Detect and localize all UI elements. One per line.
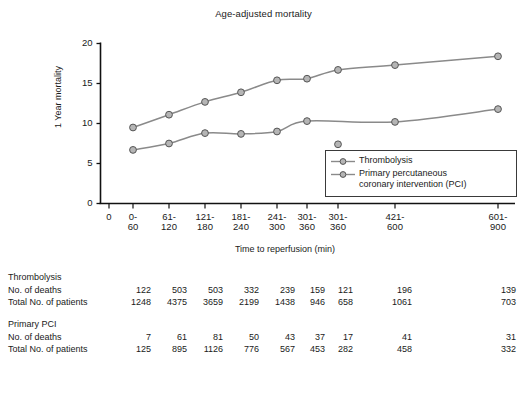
table-cell: 61	[153, 332, 187, 342]
data-point-marker	[202, 99, 209, 106]
series-line-primary-pci	[133, 109, 498, 150]
data-point-marker	[495, 53, 502, 60]
y-tick-label: 5	[71, 157, 93, 168]
table-cell: 503	[153, 285, 187, 295]
table-cell: 50	[225, 332, 259, 342]
table-row-label: No. of deaths	[8, 285, 62, 295]
table-cell: 31	[482, 332, 516, 342]
table-cell: 41	[378, 332, 412, 342]
table-cell: 1061	[378, 297, 412, 307]
data-point-marker	[274, 128, 281, 135]
y-tick-label: 20	[71, 37, 93, 48]
data-point-marker	[166, 111, 173, 118]
table-cell: 81	[189, 332, 223, 342]
y-tick-label: 10	[71, 117, 93, 128]
data-point-marker	[335, 141, 342, 148]
x-tick-label: 121- 180	[187, 212, 223, 233]
table-cell: 17	[319, 332, 353, 342]
table-cell: 2199	[225, 297, 259, 307]
table-cell: 1248	[117, 297, 151, 307]
x-tick-label: 0- 60	[115, 212, 151, 233]
x-tick-label: 181- 240	[223, 212, 259, 233]
x-tick-label: 601- 900	[480, 212, 516, 233]
table-cell: 121	[319, 285, 353, 295]
legend-marker-icon	[331, 156, 355, 167]
table-cell: 458	[378, 344, 412, 354]
y-axis-label: 1 Year mortality	[53, 66, 63, 128]
x-tick-label: 301- 360	[320, 212, 356, 233]
table-cell: 4375	[153, 297, 187, 307]
table-row-label: Total No. of patients	[8, 297, 88, 307]
table-row-label: No. of deaths	[8, 332, 62, 342]
y-tick-label: 15	[71, 77, 93, 88]
figure-age-adjusted-mortality: Age-adjusted mortality 1 Year mortality …	[0, 0, 527, 394]
series-group	[130, 53, 502, 153]
table-cell: 7	[117, 332, 151, 342]
data-point-marker	[238, 89, 245, 96]
legend-marker-icon	[331, 169, 355, 180]
table-cell: 122	[117, 285, 151, 295]
data-point-marker	[392, 62, 399, 69]
data-point-marker	[130, 124, 137, 131]
legend-label-thrombolysis: Thrombolysis	[359, 155, 413, 166]
legend-item-thrombolysis: Thrombolysis	[331, 155, 511, 167]
legend-label-line2: coronary intervention (PCI)	[359, 179, 467, 189]
table-cell: 332	[225, 285, 259, 295]
table-group-title: Thrombolysis	[8, 272, 62, 282]
legend-label-line1: Primary percutaneous	[359, 168, 447, 178]
y-tick-label: 0	[71, 197, 93, 208]
data-point-marker	[202, 130, 209, 137]
data-point-marker	[130, 147, 137, 154]
table-cell: 658	[319, 297, 353, 307]
legend-item-primary-pci: Primary percutaneouscoronary interventio…	[331, 168, 511, 190]
x-tick-label: 421- 600	[377, 212, 413, 233]
data-point-marker	[495, 106, 502, 113]
legend-label-primary-pci: Primary percutaneouscoronary interventio…	[359, 168, 467, 190]
table-cell: 776	[225, 344, 259, 354]
table-cell: 503	[189, 285, 223, 295]
table-cell: 332	[482, 344, 516, 354]
x-tick-label: 61- 120	[151, 212, 187, 233]
table-cell: 3659	[189, 297, 223, 307]
data-point-marker	[274, 77, 281, 84]
table-cell: 125	[117, 344, 151, 354]
table-group-title: Primary PCI	[8, 319, 57, 329]
table-row-label: Total No. of patients	[8, 344, 88, 354]
data-point-marker	[304, 75, 311, 82]
table-cell: 703	[482, 297, 516, 307]
chart-legend: Thrombolysis Primary percutaneouscoronar…	[325, 150, 517, 197]
table-cell: 1438	[261, 297, 295, 307]
table-cell: 196	[378, 285, 412, 295]
table-cell: 567	[261, 344, 295, 354]
table-cell: 1126	[189, 344, 223, 354]
table-cell: 895	[153, 344, 187, 354]
data-point-marker	[392, 119, 399, 126]
data-point-marker	[335, 67, 342, 74]
table-cell: 43	[261, 332, 295, 342]
table-cell: 139	[482, 285, 516, 295]
table-cell: 282	[319, 344, 353, 354]
data-point-marker	[238, 131, 245, 138]
table-cell: 239	[261, 285, 295, 295]
data-point-marker	[166, 140, 173, 147]
x-axis-label: Time to reperfusion (min)	[120, 244, 450, 254]
data-point-marker	[304, 118, 311, 125]
